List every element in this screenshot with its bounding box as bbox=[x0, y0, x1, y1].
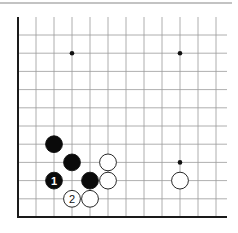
white-stone bbox=[100, 154, 117, 171]
star-point-icon bbox=[178, 51, 183, 56]
white-stone bbox=[100, 172, 117, 189]
stones: 12 bbox=[46, 136, 189, 207]
go-board: 12 bbox=[0, 0, 238, 233]
white-stone: 2 bbox=[64, 190, 81, 207]
white-stone bbox=[82, 190, 99, 207]
black-stone: 1 bbox=[46, 172, 63, 189]
star-point-icon bbox=[178, 160, 183, 165]
black-stone bbox=[82, 172, 99, 189]
star-point-icon bbox=[70, 51, 75, 56]
board-grid bbox=[17, 17, 227, 218]
move-number: 1 bbox=[51, 175, 57, 187]
move-number: 2 bbox=[69, 193, 75, 205]
black-stone bbox=[46, 136, 63, 153]
black-stone bbox=[64, 154, 81, 171]
white-stone bbox=[172, 172, 189, 189]
